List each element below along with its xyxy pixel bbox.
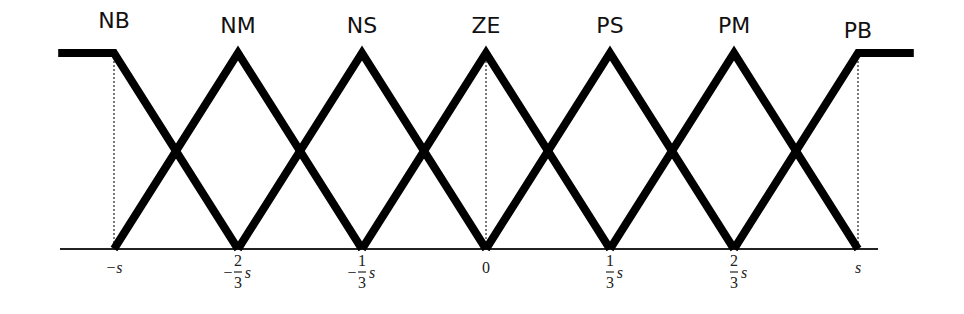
tick-denominator: 3 — [606, 274, 614, 291]
tick-sign: − — [347, 264, 356, 281]
tick-numerator: 2 — [234, 252, 242, 269]
tick-label: 13s — [606, 252, 623, 291]
tick-denominator: 3 — [234, 274, 242, 291]
membership-ns — [238, 53, 486, 249]
tick-denominator: 3 — [730, 274, 738, 291]
tick-numerator: 1 — [606, 252, 614, 269]
tick-label: −23s — [223, 252, 251, 291]
tick-sign: − — [223, 264, 232, 281]
membership-pm — [610, 53, 858, 249]
set-label-ze: ZE — [472, 13, 501, 38]
tick-denominator: 3 — [358, 274, 366, 291]
tick-label: 0 — [482, 259, 490, 276]
set-label-nm: NM — [220, 13, 255, 38]
set-label-ps: PS — [596, 13, 623, 38]
membership-nb — [58, 53, 238, 249]
tick-variable: s — [245, 264, 251, 281]
set-label-pb: PB — [844, 18, 872, 43]
tick-label: 23s — [730, 252, 747, 291]
set-label-pm: PM — [718, 13, 750, 38]
tick-text: s — [855, 259, 861, 276]
tick-variable: s — [617, 264, 623, 281]
tick-numerator: 2 — [730, 252, 738, 269]
tick-variable: s — [369, 264, 375, 281]
membership-function-chart: NBNMNSZEPSPMPB −s−23s−13s013s23ss — [0, 0, 964, 314]
membership-pb — [734, 53, 914, 249]
tick-label: s — [855, 259, 861, 276]
tick-text: 0 — [482, 259, 490, 276]
tick-label: −13s — [347, 252, 375, 291]
set-label-ns: NS — [347, 13, 377, 38]
tick-text: −s — [105, 259, 122, 276]
tick-label: −s — [105, 259, 122, 276]
membership-nm — [114, 53, 362, 249]
set-label-nb: NB — [98, 8, 130, 33]
tick-numerator: 1 — [358, 252, 366, 269]
tick-variable: s — [741, 264, 747, 281]
membership-ps — [486, 53, 734, 249]
